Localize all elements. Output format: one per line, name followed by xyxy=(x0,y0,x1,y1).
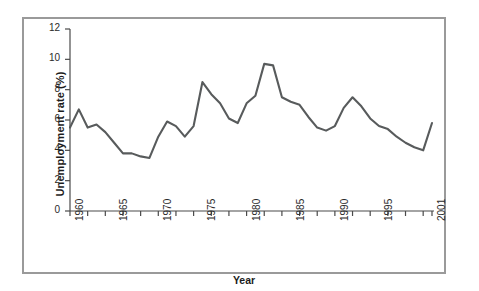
chart-frame: Unemployment rate (%) Year 024681012 196… xyxy=(22,17,446,274)
x-tick-label: 2001 xyxy=(436,199,447,221)
unemployment-rate-line xyxy=(70,64,432,158)
x-tick-label: 1980 xyxy=(251,199,262,221)
x-tick-label: 1970 xyxy=(162,199,173,221)
x-tick-label: 1960 xyxy=(74,199,85,221)
x-axis-label-text: Year xyxy=(154,274,334,286)
line-chart-plot xyxy=(24,19,444,272)
y-axis-label: Unemployment rate (%) xyxy=(50,39,70,229)
y-tick-label: 4 xyxy=(42,143,60,154)
x-tick-label: 1985 xyxy=(295,199,306,221)
y-tick-label: 6 xyxy=(42,113,60,124)
y-tick-label: 2 xyxy=(42,174,60,185)
x-tick-label: 1995 xyxy=(383,199,394,221)
y-tick-label: 12 xyxy=(42,22,60,33)
chart-figure: Unemployment rate (%) Year 024681012 196… xyxy=(0,0,479,291)
x-tick-label: 1975 xyxy=(206,199,217,221)
y-tick-label: 0 xyxy=(42,204,60,215)
y-tick-label: 10 xyxy=(42,52,60,63)
x-tick-label: 1965 xyxy=(118,199,129,221)
y-tick-label: 8 xyxy=(42,83,60,94)
x-tick-label: 1990 xyxy=(339,199,350,221)
